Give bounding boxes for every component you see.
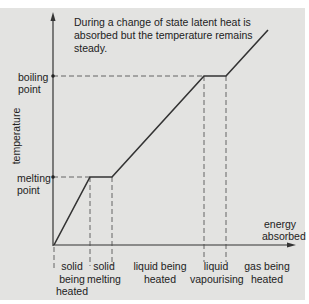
phase-gas-heated: gas being heated xyxy=(242,260,292,285)
caption-text: During a change of state latent heat is … xyxy=(74,16,274,55)
phase-liquid-vapourising: liquid vapourising xyxy=(190,260,242,285)
boiling-point-dot xyxy=(51,74,55,78)
y-axis-label: temperature xyxy=(10,106,22,166)
phase-liquid-heated: liquid being heated xyxy=(128,260,192,285)
x-axis-label: energy absorbed xyxy=(262,218,302,242)
x-axis-arrow-icon xyxy=(287,243,296,248)
phase-separators xyxy=(54,76,226,268)
phase-solid-melting: solid melting xyxy=(87,260,121,285)
y-axis-arrow-icon xyxy=(51,12,56,21)
melting-point-dot xyxy=(51,175,55,179)
heating-curve xyxy=(54,30,268,245)
phase-solid-heated: solid being heated xyxy=(55,260,89,298)
boiling-point-label: boiling point xyxy=(18,71,48,95)
melting-point-label: melting point xyxy=(17,172,51,196)
